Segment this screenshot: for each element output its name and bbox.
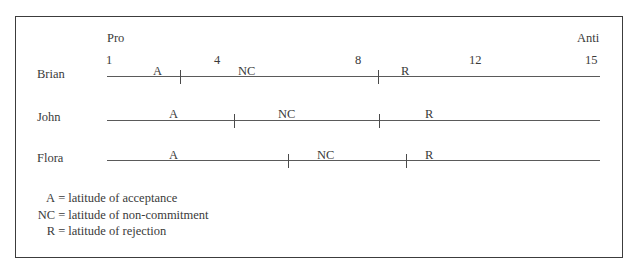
boundary-tick (378, 70, 379, 84)
scale-tick-1: 1 (106, 53, 112, 67)
boundary-tick (406, 154, 407, 168)
legend-text: latitude of non-commitment (68, 208, 208, 222)
person-name: Flora (37, 151, 63, 165)
segment-rejection: R (401, 64, 409, 78)
legend-item-non-commitment: NC = latitude of non-commitment (27, 207, 209, 223)
scale-tick-4: 4 (214, 53, 220, 67)
segment-rejection: R (425, 107, 433, 121)
boundary-tick (180, 70, 181, 84)
legend-item-rejection: R = latitude of rejection (27, 223, 166, 239)
anti-label: Anti (577, 31, 599, 45)
legend-text: latitude of acceptance (68, 191, 177, 205)
latitude-line (107, 160, 600, 161)
segment-non-commitment: NC (238, 64, 255, 78)
segment-acceptance: A (169, 148, 178, 162)
segment-non-commitment: NC (317, 148, 334, 162)
legend-eq: = (58, 191, 65, 205)
legend-eq: = (58, 224, 65, 238)
legend-key: NC (27, 207, 55, 223)
legend-eq: = (58, 208, 65, 222)
boundary-tick (234, 114, 235, 128)
legend-item-acceptance: A = latitude of acceptance (27, 190, 177, 206)
pro-label: Pro (107, 31, 124, 45)
segment-acceptance: A (153, 64, 162, 78)
legend-key: A (27, 190, 55, 206)
person-name: Brian (37, 67, 65, 81)
scale-tick-8: 8 (355, 53, 361, 67)
segment-rejection: R (425, 148, 433, 162)
person-name: John (37, 110, 61, 124)
scale-tick-15: 15 (585, 53, 598, 67)
boundary-tick (379, 114, 380, 128)
legend-key: R (27, 223, 55, 239)
scale-tick-12: 12 (469, 53, 482, 67)
latitude-line (107, 120, 600, 121)
boundary-tick (288, 154, 289, 168)
segment-acceptance: A (169, 107, 178, 121)
segment-non-commitment: NC (278, 107, 295, 121)
legend-text: latitude of rejection (68, 224, 166, 238)
